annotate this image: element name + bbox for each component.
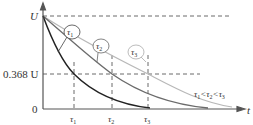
- rc-decay-diagram: U 0.368 U 0 t τ1 τ2 τ3 τ1 τ2 τ3 τ1<τ2<τ3: [0, 0, 253, 125]
- callout-tau2: τ2: [93, 39, 109, 62]
- y-axis-arrow-icon: [41, 3, 46, 10]
- callout-tau3: τ3: [128, 45, 146, 62]
- tick-tau3: τ3: [144, 114, 150, 125]
- x-axis-arrow-icon: [237, 107, 245, 112]
- tick-tau2: τ2: [108, 114, 114, 125]
- relation-label: τ1<τ2<τ3: [194, 89, 225, 100]
- origin-label: 0: [32, 103, 38, 115]
- y-axis-label-0368u: 0.368 U: [3, 68, 39, 80]
- x-axis-label-t: t: [247, 104, 251, 116]
- y-axis-label-u: U: [30, 10, 39, 22]
- tick-tau1: τ1: [70, 114, 76, 125]
- callout-tau1: τ1: [58, 25, 80, 52]
